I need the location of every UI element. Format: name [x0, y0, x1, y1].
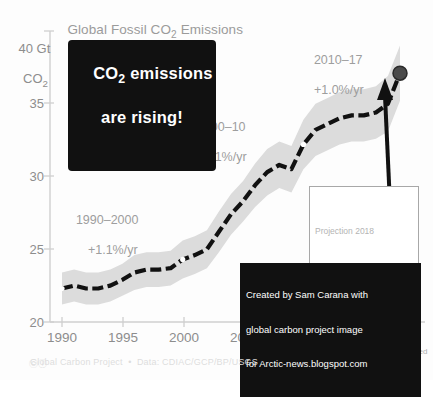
- rate-value-label: +1.1%/yr: [88, 243, 138, 258]
- title-pre: Global Fossil CO: [67, 22, 171, 37]
- rate-period-label: 1990–2000: [76, 213, 139, 227]
- y-axis-unit-gas: CO2: [23, 71, 48, 86]
- annotation-rate-1990-2000: 1990–2000 +1.1%/yr: [62, 198, 138, 273]
- rate-value-label: +1.0%/yr: [314, 83, 364, 97]
- x-tick-2000: 2000: [154, 330, 214, 345]
- annotation-rate-2010-2017: 2010–17 +1.0%/yr: [300, 38, 364, 113]
- projection-title: Projection 2018: [315, 226, 413, 237]
- y-tick-25: 25: [8, 242, 44, 257]
- credit-line-2: global carbon project image: [246, 324, 416, 336]
- y-tick-30: 30: [8, 169, 44, 184]
- x-tick-1990: 1990: [32, 330, 92, 345]
- marker-decade-2010: [301, 142, 306, 147]
- y-axis-unit-value: 40 Gt: [18, 41, 50, 56]
- title-post: Emissions: [177, 22, 243, 37]
- footer-source-credit: Global Carbon Project • Data: CDIAC/GCP/…: [30, 357, 258, 367]
- marker-projection-2018: [393, 66, 407, 80]
- y-tick-35: 35: [8, 96, 44, 111]
- credit-box: Created by Sam Carana with global carbon…: [240, 263, 421, 397]
- x-tick-1995: 1995: [93, 330, 153, 345]
- y-axis-title: 40 Gt CO2: [4, 26, 48, 106]
- credit-line-3: for Arctic-news.blogspot.com: [246, 358, 416, 370]
- callout-emissions-rising: CO2 emissions are rising!: [68, 40, 216, 171]
- rate-period-label: 2010–17: [314, 53, 363, 67]
- marker-decade-1990: [59, 286, 64, 291]
- callout-line-1: CO2 emissions: [93, 64, 213, 82]
- credit-line-1: Created by Sam Carana with: [246, 289, 416, 301]
- callout-line-2: are rising!: [74, 108, 210, 127]
- marker-decade-2000: [180, 257, 185, 262]
- y-tick-20: 20: [8, 315, 44, 330]
